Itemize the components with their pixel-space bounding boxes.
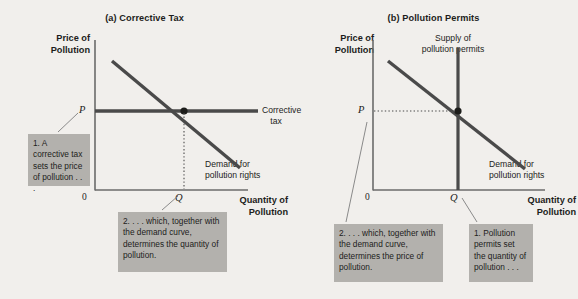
panel-b-origin-label: 0 xyxy=(365,192,370,202)
panel-b-policy-label-line2: pollution permits xyxy=(398,44,508,55)
panel-a-callout-1: 1. A corrective tax sets the price of po… xyxy=(28,134,90,186)
panel-a-title: (a) Corrective Tax xyxy=(0,13,289,23)
figure-container: (a) Corrective Tax Price of Pollution Qu… xyxy=(0,0,578,299)
panel-a-demand-label-line2: pollution rights xyxy=(205,170,287,181)
panel-b-callout-1: 1. Pollution permits set the quantity of… xyxy=(469,224,533,282)
panel-b-x-axis-label-line1: Quantity of xyxy=(493,195,576,207)
panel-a-price-label: P xyxy=(79,104,85,115)
panel-b-demand-label: Demand for pollution rights xyxy=(489,159,571,180)
panel-b-price-label: P xyxy=(358,104,364,115)
panel-a-y-axis-label: Price of Pollution xyxy=(10,33,90,56)
panel-a-quantity-label: Q xyxy=(175,192,183,203)
panel-a-y-axis-label-line2: Pollution xyxy=(10,45,90,57)
panel-b-demand-label-line2: pollution rights xyxy=(489,170,571,181)
panel-b-x-axis-label: Quantity of Pollution xyxy=(493,195,576,218)
panel-b-demand-label-line1: Demand for xyxy=(489,159,571,170)
panel-b-y-axis-label-line1: Price of xyxy=(294,33,374,45)
panel-b-title: (b) Pollution Permits xyxy=(289,13,578,23)
panel-b-x-axis-label-line2: Pollution xyxy=(493,207,576,219)
panel-corrective-tax: (a) Corrective Tax Price of Pollution Qu… xyxy=(0,0,289,299)
panel-a-origin-label: 0 xyxy=(82,192,87,202)
panel-b-y-axis-label-line2: Pollution xyxy=(294,45,374,57)
panel-b-callout-2: 2. . . . which, together with the demand… xyxy=(334,224,443,282)
panel-b-policy-label-line1: Supply of xyxy=(398,33,508,44)
panel-a-x-axis-label-line1: Quantity of xyxy=(205,195,288,207)
panel-a-demand-label-line1: Demand for xyxy=(205,159,287,170)
panel-b-y-axis-label: Price of Pollution xyxy=(294,33,374,56)
panel-a-callout-2: 2. . . . which, together with the demand… xyxy=(118,212,227,272)
panel-a-y-axis-label-line1: Price of xyxy=(10,33,90,45)
panel-b-policy-label: Supply of pollution permits xyxy=(398,33,508,54)
panel-b-quantity-label: Q xyxy=(450,192,458,203)
panel-pollution-permits: (b) Pollution Permits Price of Pollution… xyxy=(289,0,578,299)
panel-a-demand-label: Demand for pollution rights xyxy=(205,159,287,180)
panel-a-policy-label-line2: tax xyxy=(262,116,290,127)
